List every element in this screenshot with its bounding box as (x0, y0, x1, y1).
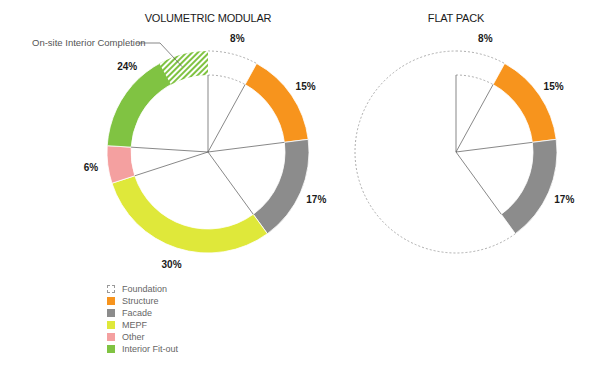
legend-item-foundation: Foundation (107, 283, 178, 295)
spoke-line (456, 85, 493, 152)
data-label-other: 6% (84, 162, 99, 173)
spoke-line (208, 152, 253, 214)
slice-foundation-outer (208, 51, 257, 63)
legend-item-facade: Facade (107, 307, 178, 319)
slice-structure (245, 63, 308, 142)
data-label-structure: 15% (544, 81, 564, 92)
spoke-line (456, 152, 501, 214)
legend-swatch-facade (107, 309, 115, 317)
legend-item-mepf: MEPF (107, 319, 178, 331)
spoke-line (208, 142, 284, 152)
legend-label: Structure (122, 296, 159, 306)
data-label-foundation: 8% (230, 33, 245, 44)
spoke-line (456, 142, 532, 152)
spoke-line (135, 152, 208, 176)
slice-structure (493, 63, 556, 142)
legend-label: Facade (122, 308, 152, 318)
slice-facade (253, 139, 309, 233)
legend-swatch-interior-fit-out (107, 345, 115, 353)
annotation-onsite-interior: On-site Interior Completion (32, 37, 146, 48)
data-label-facade: 17% (554, 194, 574, 205)
data-label-facade: 17% (306, 194, 326, 205)
legend-swatch-foundation (107, 285, 115, 293)
legend-label: Foundation (122, 284, 167, 294)
legend-item-structure: Structure (107, 295, 178, 307)
spoke-line (131, 147, 208, 152)
legend-label: MEPF (122, 320, 147, 330)
legend-swatch-other (107, 333, 115, 341)
chart-title-flatpack: FLAT PACK (428, 12, 485, 24)
data-label-foundation: 8% (478, 33, 493, 44)
legend: Foundation Structure Facade MEPF Other I… (107, 283, 178, 355)
slice-foundation-inner (456, 75, 493, 85)
remainder-outline (355, 51, 515, 253)
slice-mepf (112, 176, 267, 253)
slice-foundation-outer (456, 51, 505, 63)
slice-facade (501, 139, 557, 233)
slice-foundation-inner (208, 75, 245, 85)
spoke-line (208, 85, 245, 152)
chart-title-volumetric: VOLUMETRIC MODULAR (145, 12, 272, 24)
data-label-interior-fit-out: 24% (117, 61, 137, 72)
legend-label: Interior Fit-out (122, 344, 178, 354)
data-label-structure: 15% (296, 81, 316, 92)
legend-swatch-mepf (107, 321, 115, 329)
legend-label: Other (122, 332, 145, 342)
legend-item-other: Other (107, 331, 178, 343)
data-label-mepf: 30% (162, 259, 182, 270)
legend-item-interior-fit-out: Interior Fit-out (107, 343, 178, 355)
legend-swatch-structure (107, 297, 115, 305)
donut-charts: VOLUMETRIC MODULAR FLAT PACK On-site Int… (0, 0, 607, 371)
